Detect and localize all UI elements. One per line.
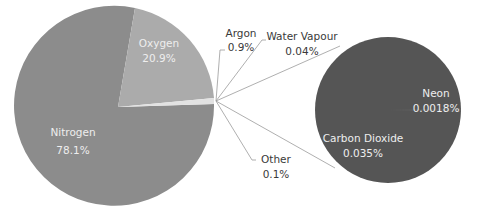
label-carbon-dioxide-value: 0.035% bbox=[343, 147, 383, 159]
label-nitrogen-name: Nitrogen bbox=[50, 126, 95, 138]
label-other-name: Other bbox=[261, 153, 291, 165]
label-water-vapour-value: 0.04% bbox=[285, 45, 318, 57]
pie-of-pie-chart: Oxygen 20.9% Nitrogen 78.1% Argon 0.9% W… bbox=[0, 0, 478, 214]
label-other-value: 0.1% bbox=[263, 168, 290, 180]
label-argon-name: Argon bbox=[225, 27, 256, 39]
label-carbon-dioxide-name: Carbon Dioxide bbox=[323, 132, 404, 144]
label-neon-value: 0.0018% bbox=[413, 102, 460, 114]
label-neon-name: Neon bbox=[422, 87, 449, 99]
label-argon-value: 0.9% bbox=[228, 41, 255, 53]
main-pie bbox=[14, 6, 214, 206]
label-water-vapour-name: Water Vapour bbox=[266, 30, 338, 42]
label-oxygen-name: Oxygen bbox=[139, 37, 179, 49]
label-nitrogen-value: 78.1% bbox=[56, 144, 89, 156]
label-oxygen-value: 20.9% bbox=[142, 52, 175, 64]
